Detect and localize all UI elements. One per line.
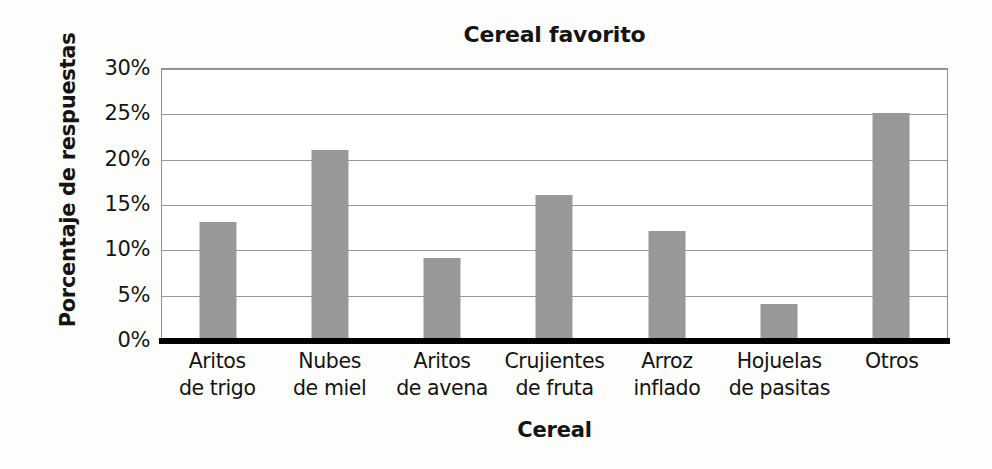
x-tick-label-line2: inflado <box>611 375 723 402</box>
y-tick-label: 20% <box>105 147 150 171</box>
x-tick-label-line1: Crujientes <box>504 349 604 373</box>
chart-page: Cereal favorito Porcentaje de respuestas… <box>0 0 992 469</box>
y-tick-label: 0% <box>117 328 150 352</box>
bar <box>312 150 349 340</box>
y-axis-title: Porcentaje de respuestas <box>56 30 80 330</box>
x-tick-label-line2: de fruta <box>498 375 610 402</box>
x-tick-label: Nubesde miel <box>273 348 385 402</box>
y-tick-label: 5% <box>117 283 150 307</box>
bar-slot <box>498 69 610 340</box>
plot-area <box>161 68 948 340</box>
x-tick-label: Otros <box>836 348 948 402</box>
x-tick-label: Aritosde avena <box>386 348 498 402</box>
y-tick-label: 25% <box>105 101 150 125</box>
x-tick-label: Crujientesde fruta <box>498 348 610 402</box>
x-tick-label: Arrozinflado <box>611 348 723 402</box>
x-tick-label-line2: de trigo <box>161 375 273 402</box>
y-tick-label: 10% <box>105 237 150 261</box>
y-axis-tick-labels: 30%25%20%15%10%5%0% <box>82 68 156 340</box>
chart-title: Cereal favorito <box>161 22 948 47</box>
x-tick-label-line1: Aritos <box>189 349 246 373</box>
x-tick-label: Aritosde trigo <box>161 348 273 402</box>
bar-series <box>162 69 947 340</box>
bar <box>872 113 909 340</box>
bar <box>200 222 237 340</box>
bar-slot <box>274 69 386 340</box>
bar <box>536 195 573 340</box>
bar-slot <box>386 69 498 340</box>
x-axis-line <box>159 338 950 344</box>
y-tick-label: 15% <box>105 192 150 216</box>
x-axis-tick-labels: Aritosde trigoNubesde mielAritosde avena… <box>161 348 948 402</box>
x-axis-title: Cereal <box>161 418 948 442</box>
bar <box>760 304 797 340</box>
bar-slot <box>162 69 274 340</box>
bar-slot <box>835 69 947 340</box>
bar <box>424 258 461 340</box>
x-tick-label-line2: de miel <box>273 375 385 402</box>
x-tick-label-line1: Otros <box>865 349 918 373</box>
x-tick-label-line1: Hojuelas <box>737 349 822 373</box>
bar <box>648 231 685 340</box>
x-tick-label-line1: Nubes <box>298 349 361 373</box>
x-tick-label-line2: de avena <box>386 375 498 402</box>
bar-slot <box>611 69 723 340</box>
x-tick-label-line1: Arroz <box>641 349 692 373</box>
bar-slot <box>723 69 835 340</box>
x-tick-label-line1: Aritos <box>414 349 471 373</box>
x-tick-label: Hojuelasde pasitas <box>723 348 835 402</box>
y-tick-label: 30% <box>105 56 150 80</box>
x-tick-label-line2: de pasitas <box>723 375 835 402</box>
